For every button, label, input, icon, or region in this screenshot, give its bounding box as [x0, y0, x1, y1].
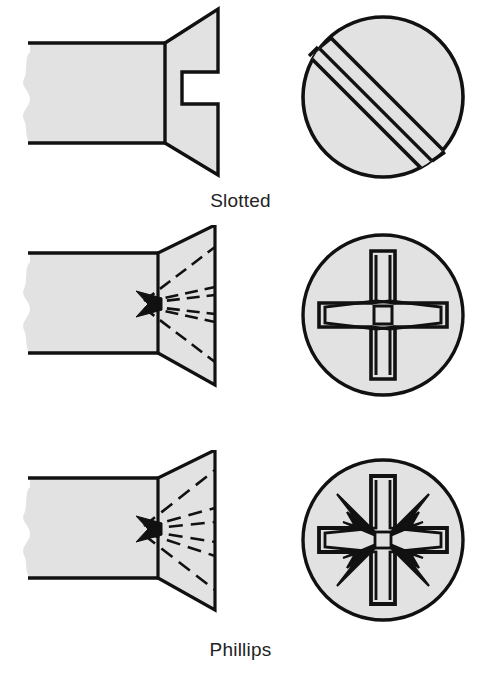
pozidriv-screw-side-section: [10, 450, 240, 650]
drive-row-slotted: Slotted: [0, 0, 503, 225]
flute-corner-tr: [376, 301, 395, 303]
drive-row-pozidriv: Pozidriv®: [0, 450, 503, 675]
countersunk-head: [158, 225, 215, 385]
caption-slotted-label: Slotted: [210, 190, 271, 211]
drive-row-phillips: Phillips: [0, 225, 503, 450]
flute-corner-br: [376, 327, 395, 329]
countersunk-head: [158, 450, 215, 610]
slotted-screw-head-top: [285, 0, 475, 190]
pozidriv-screw-head-top: [285, 450, 475, 640]
shank-body: [23, 43, 165, 143]
shank-body: [23, 253, 158, 353]
caption-slotted: Slotted: [0, 190, 503, 212]
phillips-screw-head-top: [285, 225, 475, 415]
screw-drive-types-figure: Slotted: [0, 0, 503, 680]
cross-center-socket: [375, 532, 391, 548]
shank-body: [23, 478, 158, 578]
countersunk-head-with-slot: [165, 9, 218, 175]
phillips-screw-side-section: [10, 225, 240, 425]
slotted-screw-side-section: [10, 0, 240, 190]
cross-center-socket: [374, 306, 392, 324]
